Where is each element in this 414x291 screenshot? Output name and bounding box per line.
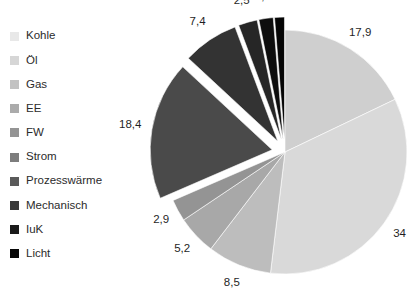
pie-graphic xyxy=(0,0,414,291)
pie-slice-value-label: 7,4 xyxy=(190,16,206,28)
pie-slice-value-label: 2,9 xyxy=(153,214,169,226)
pie-slice-value-label: 34 xyxy=(393,228,406,240)
pie-slice-value-label: 8,5 xyxy=(224,277,240,289)
pie-chart-figure: KohleÖlGasEEFWStromProzesswärmeMechanisc… xyxy=(0,0,414,291)
pie-slice-value-label: 17,9 xyxy=(349,27,371,39)
pie-slice-value-label: 18,4 xyxy=(119,120,141,132)
pie-slice-value-label: 1,3 xyxy=(271,0,287,1)
pie-slice-value-label: 2,5 xyxy=(234,0,250,7)
pie-slice-value-label: 1,9 xyxy=(255,0,271,2)
pie-slice-value-label: 5,2 xyxy=(174,243,190,255)
